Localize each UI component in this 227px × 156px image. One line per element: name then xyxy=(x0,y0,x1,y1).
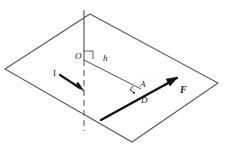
plane-parallelogram xyxy=(5,14,218,142)
label-current: I xyxy=(53,69,56,78)
label-origin: O xyxy=(75,52,82,61)
right-angle-marker-a xyxy=(130,86,135,93)
force-line-of-action xyxy=(101,82,170,120)
right-angle-marker-o xyxy=(84,51,93,59)
label-point-d: D xyxy=(141,96,148,105)
figure-canvas xyxy=(0,0,227,156)
current-arrowhead xyxy=(75,82,84,91)
geometry-figure: O h A D F I xyxy=(0,0,227,156)
label-point-a: A xyxy=(140,80,146,89)
label-force-vector: F xyxy=(180,85,187,95)
point-d-marker xyxy=(133,92,135,94)
force-arrowhead xyxy=(166,77,178,86)
label-distance: h xyxy=(103,54,108,63)
moment-arm-line xyxy=(84,60,141,89)
